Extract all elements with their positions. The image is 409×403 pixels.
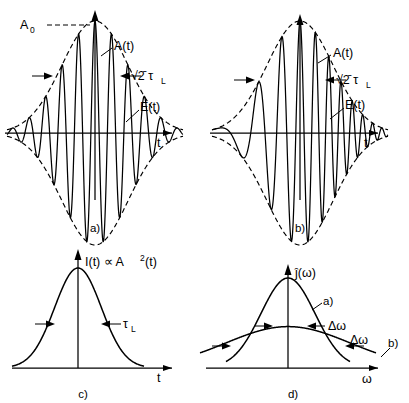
panel-b: A(t) √2̄ τ L E(t) t b) [210, 14, 388, 245]
panel-b-x-axis-label: t [364, 136, 368, 150]
panel-d-width-b-label: Δω [350, 333, 368, 347]
panel-d: ĵ(ω) a) Δω Δω b) ω d) [200, 264, 398, 400]
panel-a-x-axis-label: t [157, 136, 161, 150]
panel-a: A 0 A(t) √2̄ τ L E(t) t a) [5, 10, 183, 245]
panel-d-y-axis-label: ĵ(ω) [294, 266, 316, 280]
panel-b-field-leader [330, 108, 344, 119]
panel-b-fwhm-arrow-left-head [246, 77, 255, 84]
panel-d-x-axis-label: ω [362, 372, 372, 386]
panel-a-fwhm-arrow-right-head [120, 73, 129, 80]
panel-c-fwhm-arrow-right-head [101, 321, 110, 328]
panel-d-curve-a-label: a) [323, 295, 333, 307]
panel-c-width-label: τ [123, 317, 128, 331]
panel-a-amplitude-subscript: 0 [30, 25, 35, 35]
panel-a-amplitude-label: A [20, 18, 29, 32]
panel-c-y-arrowhead [75, 249, 82, 260]
panel-d-width-b-arrow-left-head [222, 343, 231, 350]
panel-d-x-arrowhead [369, 365, 378, 371]
panel-a-y-arrowhead [92, 10, 99, 21]
panel-a-width-label: √2̄ τ [131, 69, 153, 83]
panel-d-caption: d) [288, 388, 298, 400]
panel-d-curve-b-leader [381, 348, 390, 357]
panel-d-curve-b-label: b) [388, 337, 398, 349]
panel-b-caption: b) [295, 222, 305, 234]
panel-c-x-axis-label: t [157, 371, 161, 385]
panel-a-field-label: E(t) [140, 100, 160, 114]
pulse-figure: A 0 A(t) √2̄ τ L E(t) t a) A(t) √2̄ τ L … [0, 0, 409, 403]
panel-c-fwhm-arrow-left-head [46, 321, 55, 328]
panel-c-x-arrowhead [163, 365, 172, 371]
panel-c-y-axis-label: I(t) ∝ A [85, 255, 125, 269]
panel-c-caption: c) [78, 388, 88, 400]
panel-d-curve-a-leader [312, 303, 322, 310]
panel-c: I(t) ∝ A 2 (t) τ L t c) [12, 249, 172, 400]
panel-a-caption: a) [90, 222, 100, 234]
panel-c-y-axis-label-tail: (t) [145, 255, 157, 269]
panel-a-field-leader [126, 110, 139, 122]
panel-b-width-subscript: L [366, 80, 371, 90]
panel-c-width-subscript: L [131, 324, 136, 334]
panel-b-width-label: √2̄ τ [336, 73, 358, 87]
panel-a-envelope-label: A(t) [114, 39, 134, 53]
panel-d-y-arrowhead [285, 264, 292, 275]
panel-a-fwhm-arrow-left-head [44, 73, 53, 80]
panel-a-width-subscript: L [161, 76, 166, 86]
panel-b-fwhm-arrow-right-head [325, 77, 334, 84]
panel-d-width-a-label: Δω [328, 319, 346, 333]
panel-b-envelope-label: A(t) [333, 46, 353, 60]
panel-b-field-label: E(t) [345, 98, 365, 112]
